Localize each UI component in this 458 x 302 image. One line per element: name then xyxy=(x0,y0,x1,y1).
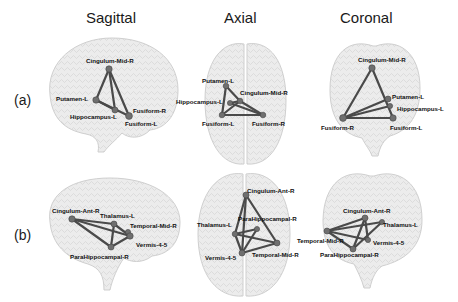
label-fusiform-l: Fusiform-L xyxy=(202,120,235,127)
node-cingulum-ant-r xyxy=(69,216,75,222)
label-putamen-l: Putamen-L xyxy=(202,77,234,84)
label-cingulum-mid-r: Cingulum-Mid-R xyxy=(358,56,406,63)
label-hippocampus-l: Hippocampus-L xyxy=(397,105,444,112)
node-vermis-4-5 xyxy=(365,237,370,242)
node-fusiform xyxy=(126,113,133,120)
node-parahippocampal-r xyxy=(254,226,259,231)
label-temporal-mid-r: Temporal-Mid-R xyxy=(252,251,299,258)
node-thalamus-l xyxy=(111,221,117,227)
label-cingulum-ant-r: Cingulum-Ant-R xyxy=(247,187,295,194)
label-temporal-mid-r: Temporal-Mid-R xyxy=(130,222,177,229)
node-vermis-4-5 xyxy=(239,250,245,256)
label-cingulum-mid-r: Cingulum-Mid-R xyxy=(240,89,288,96)
node-temporal-mid-r xyxy=(274,240,280,246)
label-vermis-4-5: Vermis-4-5 xyxy=(136,241,168,248)
label-fusiform-l: Fusiform-L xyxy=(390,124,423,131)
node-putamen-l xyxy=(385,96,391,102)
label-fusiform-r: Fusiform-R xyxy=(252,120,286,127)
node-cingulum-mid-r xyxy=(237,98,243,104)
node-temporal-mid-r xyxy=(324,228,330,234)
label-cingulum-ant-r: Cingulum-Ant-R xyxy=(52,207,100,214)
node-putamen-l xyxy=(223,83,229,89)
label-vermis-4-5: Vermis-4-5 xyxy=(205,254,237,261)
label-thalamus-l: Thalamus-L xyxy=(197,221,232,228)
label-cingulum-mid-r: Cingulum-Mid-R xyxy=(86,57,134,64)
label-cingulum-ant-r: Cingulum-Ant-R xyxy=(343,207,391,214)
label-fusiform-r: Fusiform-R xyxy=(321,124,355,131)
node-thalamus-l xyxy=(232,231,238,237)
label-parahippocampal-r: ParaHippocampal-R xyxy=(70,253,129,260)
node-hippocampus-l xyxy=(387,103,392,108)
label-putamen-l: Putamen-L xyxy=(56,95,88,102)
brain-sagittal-b xyxy=(50,178,180,290)
node-cingulum-ant-r xyxy=(362,215,368,221)
label-parahippocampal-r: ParaHippocampal-R xyxy=(238,215,297,222)
node-fusiform-l xyxy=(390,115,396,121)
label-thalamus-l: Thalamus-L xyxy=(383,221,418,228)
node-cingulum-mid-r xyxy=(369,65,375,71)
node-hippocampus-l xyxy=(227,100,232,105)
label-fusiform-l: Fusiform-L xyxy=(125,120,158,127)
label-parahippocampal-r: ParaHippocampal-R xyxy=(320,251,379,258)
node-parahippocampal-r xyxy=(108,244,114,250)
node-fusiform-r xyxy=(340,115,347,122)
node-fusiform-r xyxy=(260,112,266,118)
label-hippocampus-l: Hippocampus-L xyxy=(176,98,223,105)
label-thalamus-l: Thalamus-L xyxy=(100,212,135,219)
label-fusiform-r: Fusiform-R xyxy=(133,107,167,114)
node-cingulum-mid-r xyxy=(106,66,112,72)
node-putamen-l xyxy=(93,97,99,103)
label-putamen-l: Putamen-L xyxy=(392,93,424,100)
node-fusiform-l xyxy=(219,112,225,118)
label-temporal-mid-r: Temporal-Mid-R xyxy=(297,237,344,244)
brain-network-figure: Cingulum-Mid-R Putamen-L Hippocampus-L F… xyxy=(0,0,458,302)
label-hippocampus-l: Hippocampus-L xyxy=(70,113,117,120)
node-vermis-4-5 xyxy=(127,233,133,239)
label-vermis-4-5: Vermis-4-5 xyxy=(373,239,405,246)
